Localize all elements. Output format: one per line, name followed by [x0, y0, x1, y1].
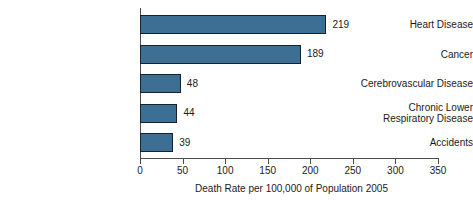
x-axis-tick	[225, 159, 226, 164]
bar-chart: Heart DiseaseCancerCerebrovascular Disea…	[0, 0, 473, 212]
x-axis-tick-label: 200	[302, 166, 319, 176]
x-axis-tick-label: 100	[217, 166, 234, 176]
bar-value-label: 219	[332, 20, 349, 30]
bar	[140, 45, 301, 64]
bar-row: 219	[140, 15, 438, 34]
x-axis-line	[140, 158, 439, 159]
bar-row: 48	[140, 74, 438, 93]
x-axis-tick	[140, 159, 141, 164]
x-axis-tick	[353, 159, 354, 164]
bar-row: 189	[140, 45, 438, 64]
x-axis-tick-label: 350	[430, 166, 447, 176]
bar	[140, 104, 177, 123]
x-axis-tick	[395, 159, 396, 164]
bar-value-label: 39	[179, 138, 190, 148]
x-axis-title: Death Rate per 100,000 of Population 200…	[0, 184, 473, 194]
x-axis-tick-label: 250	[345, 166, 362, 176]
x-axis-tick	[183, 159, 184, 164]
bar-value-label: 44	[183, 108, 194, 118]
x-axis-tick	[268, 159, 269, 164]
bar-row: 44	[140, 104, 438, 123]
x-axis-title-text: Death Rate per 100,000 of Population 200…	[195, 184, 388, 194]
x-axis-tick-label: 0	[137, 166, 143, 176]
x-axis-tick-label: 50	[177, 166, 188, 176]
bar	[140, 74, 181, 93]
bar-value-label: 48	[187, 79, 198, 89]
x-axis-tick	[438, 159, 439, 164]
x-axis-tick	[310, 159, 311, 164]
bar-value-label: 189	[307, 49, 324, 59]
x-axis-tick-label: 150	[259, 166, 276, 176]
bar	[140, 133, 173, 152]
bar	[140, 15, 326, 34]
bar-row: 39	[140, 133, 438, 152]
x-axis-tick-label: 300	[387, 166, 404, 176]
